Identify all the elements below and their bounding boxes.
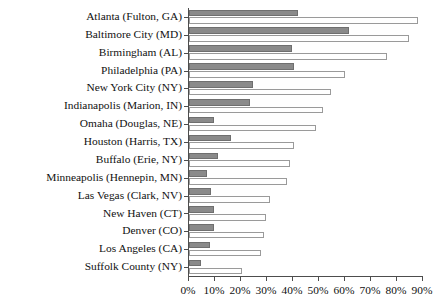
- y-axis-tick: [184, 71, 188, 72]
- bar: [189, 99, 250, 106]
- x-axis-line: [188, 276, 423, 277]
- y-axis-tick: [184, 88, 188, 89]
- y-axis-tick: [184, 124, 188, 125]
- x-axis-tick-label: 60%: [334, 284, 355, 296]
- bar: [189, 268, 242, 275]
- y-axis-tick: [184, 178, 188, 179]
- x-axis-tick-label: 10%: [204, 284, 225, 296]
- bar: [189, 232, 264, 239]
- bar: [189, 153, 218, 160]
- bar: [189, 196, 270, 203]
- bar: [189, 117, 214, 124]
- category-label: Los Angeles (CA): [99, 240, 182, 258]
- y-axis-tick: [184, 213, 188, 214]
- y-axis-tick: [184, 106, 188, 107]
- bar: [189, 107, 323, 114]
- category-label: Houston (Harris, TX): [84, 133, 182, 151]
- bar: [189, 260, 201, 267]
- x-axis-tick: [422, 277, 423, 281]
- category-label: Omaha (Douglas, NE): [80, 115, 182, 133]
- bar: [189, 71, 345, 78]
- bar: [189, 214, 266, 221]
- x-axis-tick-label: 0%: [180, 284, 195, 296]
- x-axis-tick-label: 90%: [412, 284, 433, 296]
- x-axis-tick-label: 30%: [256, 284, 277, 296]
- y-axis-tick: [184, 160, 188, 161]
- bar: [189, 81, 253, 88]
- y-axis-tick: [184, 231, 188, 232]
- category-label: Indianapolis (Marion, IN): [64, 97, 182, 115]
- bar: [189, 89, 331, 96]
- bar: [189, 53, 387, 60]
- bar: [189, 142, 294, 149]
- x-axis-tick-label: 70%: [360, 284, 381, 296]
- bar: [189, 188, 211, 195]
- x-axis-tick: [188, 277, 189, 281]
- x-axis-tick: [214, 277, 215, 281]
- x-axis-tick-label: 80%: [386, 284, 407, 296]
- y-axis-tick: [184, 267, 188, 268]
- category-label: Birmingham (AL): [99, 44, 182, 62]
- category-label: Baltimore City (MD): [85, 26, 182, 44]
- bar: [189, 242, 210, 249]
- category-label: New Haven (CT): [103, 205, 182, 223]
- bar: [189, 135, 231, 142]
- x-axis-tick-label: 20%: [230, 284, 251, 296]
- category-label: Philadelphia (PA): [101, 62, 182, 80]
- category-label: Buffalo (Erie, NY): [96, 151, 182, 169]
- x-axis-tick: [292, 277, 293, 281]
- x-axis-tick: [318, 277, 319, 281]
- bar: [189, 170, 207, 177]
- x-axis-tick: [344, 277, 345, 281]
- bar: [189, 125, 316, 132]
- bar: [189, 160, 290, 167]
- bar: [189, 63, 294, 70]
- x-axis-tick: [370, 277, 371, 281]
- y-axis-tick: [184, 35, 188, 36]
- category-label: Atlanta (Fulton, GA): [86, 8, 182, 26]
- y-axis-tick: [184, 142, 188, 143]
- x-axis-tick: [266, 277, 267, 281]
- plot-area: 0%10%20%30%40%50%60%70%80%90%: [188, 8, 422, 276]
- bar: [189, 10, 298, 17]
- bar-chart: Atlanta (Fulton, GA)Baltimore City (MD)B…: [0, 0, 433, 305]
- x-axis-tick-label: 40%: [282, 284, 303, 296]
- y-axis-tick: [184, 196, 188, 197]
- y-axis-tick: [184, 17, 188, 18]
- bar: [189, 17, 418, 24]
- category-label: Minneapolis (Hennepin, MN): [46, 169, 182, 187]
- bar: [189, 178, 287, 185]
- category-label: New York City (NY): [86, 79, 182, 97]
- y-axis-tick: [184, 249, 188, 250]
- category-label: Suffolk County (NY): [85, 258, 182, 276]
- bar: [189, 206, 214, 213]
- bar: [189, 224, 214, 231]
- category-label: Las Vegas (Clark, NV): [78, 187, 182, 205]
- category-label: Denver (CO): [122, 222, 182, 240]
- y-axis-tick: [184, 53, 188, 54]
- x-axis-tick: [240, 277, 241, 281]
- bar: [189, 35, 409, 42]
- category-axis-labels: Atlanta (Fulton, GA)Baltimore City (MD)B…: [0, 8, 186, 276]
- bar: [189, 45, 292, 52]
- x-axis-tick-label: 50%: [308, 284, 329, 296]
- x-axis-tick: [396, 277, 397, 281]
- bar: [189, 250, 261, 257]
- bar: [189, 27, 349, 34]
